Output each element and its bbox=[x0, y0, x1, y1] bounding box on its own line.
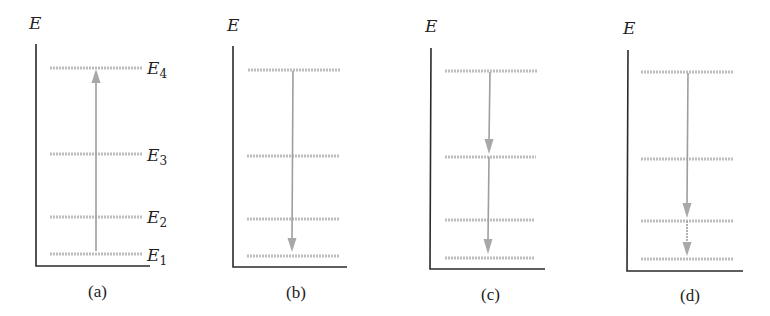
panel-c: E (c) bbox=[424, 16, 545, 304]
svg-text:E2: E2 bbox=[146, 207, 167, 230]
energy-axis-label: E bbox=[226, 15, 240, 35]
energy-axis-label: E bbox=[424, 16, 438, 36]
energy-level-diagram: E E4 E3 E2 E1 (a) E bbox=[0, 0, 770, 316]
arrow-down-icon bbox=[484, 157, 493, 254]
caption-b: (b) bbox=[286, 283, 306, 302]
caption-c: (c) bbox=[481, 285, 500, 304]
svg-text:E3: E3 bbox=[146, 145, 167, 168]
arrow-down-icon bbox=[288, 71, 297, 252]
level-label-e3: E3 bbox=[146, 145, 167, 168]
panel-a: E E4 E3 E2 E1 (a) bbox=[28, 13, 167, 301]
arrow-down-icon bbox=[485, 72, 494, 154]
energy-axis-label: E bbox=[28, 13, 42, 33]
arrow-down-icon bbox=[683, 73, 692, 218]
arrow-down-icon bbox=[683, 221, 692, 256]
panel-d: E (d) bbox=[622, 18, 743, 305]
panel-b: E (b) bbox=[226, 15, 347, 302]
caption-a: (a) bbox=[88, 282, 107, 301]
svg-text:E1: E1 bbox=[146, 245, 167, 268]
arrow-up-icon bbox=[92, 69, 101, 251]
energy-axis-label: E bbox=[622, 18, 636, 38]
level-label-e2: E2 bbox=[146, 207, 167, 230]
caption-d: (d) bbox=[680, 286, 700, 305]
level-label-e4: E4 bbox=[146, 58, 167, 81]
level-label-e1: E1 bbox=[146, 245, 167, 268]
svg-text:E4: E4 bbox=[146, 58, 167, 81]
